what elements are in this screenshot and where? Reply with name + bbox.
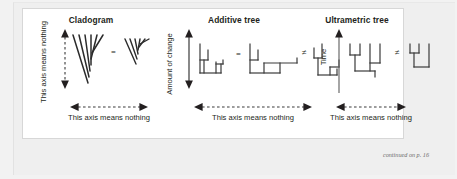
cladogram-tree-right (123, 37, 151, 67)
additive-tree-relation-symbol-1: = (236, 49, 241, 59)
cladogram-x-axis (69, 101, 149, 113)
figure-root: Cladogram This axis means nothing (0, 0, 457, 179)
additive-tree-y-axis-label: Amount of change (165, 31, 174, 97)
additive-tree-1 (197, 41, 231, 85)
cladogram-y-axis-label: This axis means nothing (39, 27, 48, 103)
figure-box: Cladogram This axis means nothing (22, 8, 404, 139)
cladogram-tree-left (71, 33, 105, 87)
continued-note: continued on p. 16 (383, 151, 429, 158)
cladogram-relation-symbol: = (111, 47, 116, 57)
panel-title-additive-tree: Additive tree (159, 15, 309, 25)
ultrametric-tree-y-axis (333, 28, 345, 94)
additive-tree-2 (247, 41, 305, 85)
panel-ultrametric-tree: Ultrametric tree Time (309, 9, 405, 140)
ultrametric-tree-x-axis-label: This axis means nothing (311, 113, 431, 122)
cladogram-x-axis-label: This axis means nothing (47, 113, 171, 122)
ultrametric-tree-y-axis-label: Time (319, 37, 328, 77)
additive-tree-relation-symbol-2: ≠ (302, 47, 307, 57)
ultrametric-tree-right (407, 41, 441, 85)
ultrametric-tree-x-axis (335, 101, 407, 113)
panel-cladogram: Cladogram This axis means nothing (23, 9, 159, 140)
ultrametric-tree-relation-symbol: ≠ (395, 47, 400, 57)
panel-title-ultrametric-tree: Ultrametric tree (309, 15, 405, 25)
additive-tree-y-axis (183, 28, 195, 90)
cladogram-y-axis (59, 28, 71, 90)
additive-tree-x-axis (193, 101, 313, 113)
ultrametric-tree-left (347, 41, 391, 85)
panel-additive-tree: Additive tree Amount of change (159, 9, 309, 140)
additive-tree-x-axis-label: This axis means nothing (191, 113, 315, 122)
